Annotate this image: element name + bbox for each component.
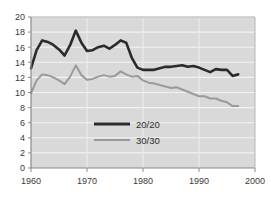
x-tick-label: 1960 <box>21 176 41 186</box>
line-chart: 02468101214161820 19601970198019902000 2… <box>0 0 271 198</box>
legend-label-30-30: 30/30 <box>136 135 160 146</box>
x-tick-label: 1990 <box>189 176 209 186</box>
y-tick-label: 4 <box>20 133 25 143</box>
y-tick-label: 6 <box>20 118 25 128</box>
y-tick-label: 10 <box>15 88 25 98</box>
y-tick-label: 0 <box>20 163 25 173</box>
y-axis-ticks: 02468101214161820 <box>15 12 31 173</box>
legend-label-20-20: 20/20 <box>136 119 160 130</box>
y-tick-label: 16 <box>15 43 25 53</box>
x-axis-ticks: 19601970198019902000 <box>21 168 265 186</box>
x-tick-label: 2000 <box>245 176 265 186</box>
y-tick-label: 2 <box>20 148 25 158</box>
y-tick-label: 8 <box>20 103 25 113</box>
x-tick-label: 1970 <box>77 176 97 186</box>
y-tick-label: 14 <box>15 58 25 68</box>
y-tick-label: 18 <box>15 27 25 37</box>
x-tick-label: 1980 <box>133 176 153 186</box>
y-tick-label: 12 <box>15 73 25 83</box>
y-tick-label: 20 <box>15 12 25 22</box>
chart-container: 02468101214161820 19601970198019902000 2… <box>0 0 271 198</box>
